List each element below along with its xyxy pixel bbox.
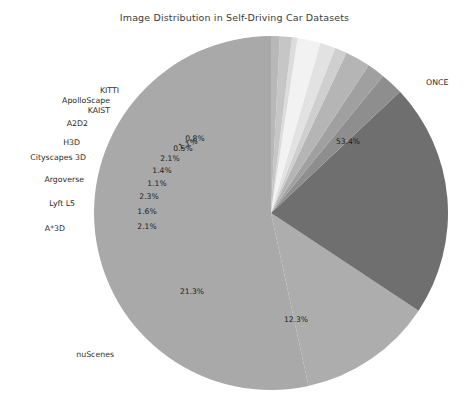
- pie-chart-figure: Image Distribution in Self-Driving Car D…: [0, 0, 469, 395]
- wedge-group: [94, 36, 448, 390]
- pie-wedges-canvas: [0, 0, 469, 395]
